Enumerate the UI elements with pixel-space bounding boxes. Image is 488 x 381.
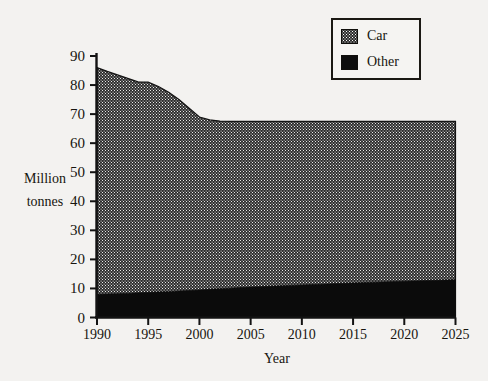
- x-tick-label: 2020: [381, 328, 427, 342]
- x-tick-label: 1990: [74, 328, 120, 342]
- x-tick-label: 2010: [279, 328, 325, 342]
- y-axis-title-line2: tonnes: [10, 195, 80, 209]
- chart-page: 0102030405060708090 19901995200020052010…: [0, 0, 488, 381]
- x-tick-label: 2005: [228, 328, 274, 342]
- y-tick-label: 10: [55, 281, 85, 296]
- y-axis-title-line1: Million: [10, 172, 80, 186]
- car-pattern-swatch-icon: [341, 29, 358, 44]
- y-tick-label: 60: [55, 136, 85, 151]
- series-area-car: [97, 68, 456, 318]
- x-tick-label: 1995: [125, 328, 171, 342]
- y-tick-label: 30: [55, 223, 85, 238]
- x-axis-title: Year: [232, 352, 322, 366]
- y-tick-label: 90: [55, 49, 85, 64]
- x-tick-label: 2015: [330, 328, 376, 342]
- other-solid-swatch-icon: [341, 55, 358, 70]
- legend-label-car: Car: [367, 28, 387, 44]
- chart-legend: Car Other: [331, 18, 421, 80]
- x-tick-label: 2000: [176, 328, 222, 342]
- y-tick-label: 80: [55, 78, 85, 93]
- y-tick-label: 70: [55, 107, 85, 122]
- y-tick-label: 20: [55, 252, 85, 267]
- legend-label-other: Other: [367, 54, 399, 70]
- y-tick-label: 0: [55, 311, 85, 326]
- x-tick-label: 2025: [433, 328, 479, 342]
